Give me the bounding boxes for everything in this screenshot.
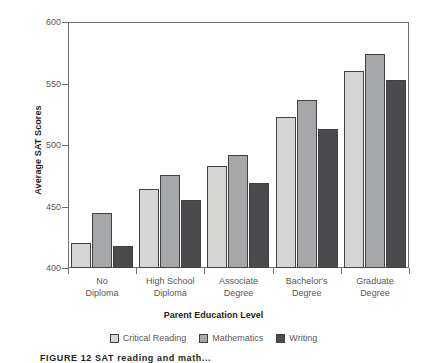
x-axis-separator [273, 268, 274, 274]
x-axis-separator [204, 268, 205, 274]
y-axis-tick-label: 550 [21, 79, 61, 89]
legend-swatch-icon [276, 334, 285, 343]
bar [318, 129, 338, 268]
x-axis-separator [68, 268, 69, 274]
legend-item[interactable]: Mathematics [199, 333, 263, 343]
legend-item[interactable]: Writing [276, 333, 317, 343]
bar [228, 155, 248, 268]
x-axis-category-line: Degree [273, 288, 341, 300]
chart-legend: Critical ReadingMathematicsWriting [0, 333, 427, 343]
bar [386, 80, 406, 268]
bar [71, 243, 91, 268]
x-axis-category-line: No [68, 276, 136, 288]
x-axis-category-line: High School [136, 276, 204, 288]
y-axis-tick-label: 500 [21, 140, 61, 150]
legend-item[interactable]: Critical Reading [110, 333, 187, 343]
x-axis-category-label: High SchoolDiploma [136, 276, 204, 299]
x-axis-category-line: Diploma [68, 288, 136, 300]
bar-group [136, 22, 204, 268]
bar [160, 175, 180, 268]
bar [249, 183, 269, 268]
x-axis-separator [136, 268, 137, 274]
x-axis-separator [341, 268, 342, 274]
bar [113, 246, 133, 268]
x-axis-category-line: Degree [204, 288, 272, 300]
legend-label: Writing [289, 333, 317, 343]
x-axis-category-label: GraduateDegree [341, 276, 409, 299]
y-axis-tick-label: 450 [21, 202, 61, 212]
bar [92, 213, 112, 268]
y-axis-tick-label: 400 [21, 263, 61, 273]
y-axis-tick-label: 600 [21, 17, 61, 27]
figure-caption: FIGURE 12 SAT reading and math... [40, 353, 427, 363]
x-axis-category-line: Bachelor's [273, 276, 341, 288]
bar-group [273, 22, 341, 268]
x-axis-separator [409, 268, 410, 274]
x-axis-category-line: Associate [204, 276, 272, 288]
bar-group [204, 22, 272, 268]
bar [139, 189, 159, 268]
x-axis-category-label: Bachelor'sDegree [273, 276, 341, 299]
bar-group [341, 22, 409, 268]
x-axis-category-line: Diploma [136, 288, 204, 300]
x-axis-title: Parent Education Level [0, 310, 427, 320]
legend-swatch-icon [199, 334, 208, 343]
legend-label: Critical Reading [123, 333, 187, 343]
x-axis-category-line: Degree [341, 288, 409, 300]
legend-label: Mathematics [212, 333, 263, 343]
legend-swatch-icon [110, 334, 119, 343]
bars-layer [68, 22, 409, 268]
x-axis-category-label: AssociateDegree [204, 276, 272, 299]
bar [365, 54, 385, 268]
bar [344, 71, 364, 268]
bar [297, 100, 317, 269]
bar [207, 166, 227, 268]
x-axis-category-label: NoDiploma [68, 276, 136, 299]
bar [181, 200, 201, 268]
bar [276, 117, 296, 268]
x-axis-category-line: Graduate [341, 276, 409, 288]
bar-group [68, 22, 136, 268]
